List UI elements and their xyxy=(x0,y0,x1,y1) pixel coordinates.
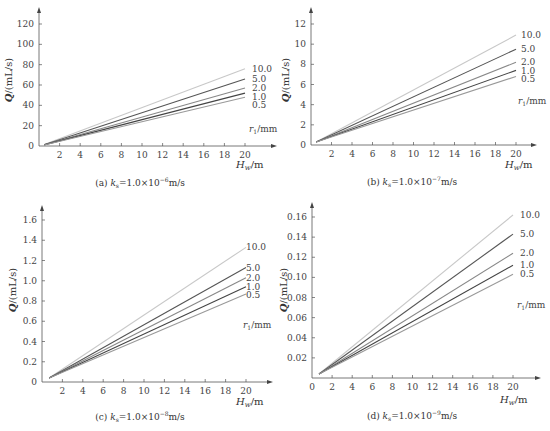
x-tick-label: 10 xyxy=(407,382,419,392)
y-tick-label: 0.4 xyxy=(23,337,38,347)
x-axis-label: Hw/m xyxy=(504,159,533,172)
legend-title: r1/mm xyxy=(249,124,278,135)
x-tick-label: 12 xyxy=(427,382,438,392)
x-tick-label: 10 xyxy=(136,150,148,160)
x-axis-arrow-icon xyxy=(267,380,273,384)
legend-title: r1/mm xyxy=(243,320,272,331)
y-tick-label: 4 xyxy=(300,100,306,110)
y-axis-arrow-icon xyxy=(310,202,314,208)
y-tick-label: 0.10 xyxy=(287,272,307,282)
x-axis-label: Hw/m xyxy=(235,159,264,172)
x-tick-label: 2 xyxy=(60,386,66,396)
y-tick-label: 0 xyxy=(28,141,34,151)
x-tick-label: 12 xyxy=(428,149,439,159)
chart-caption: (a) ks=1.0×10−6m/s xyxy=(95,176,185,189)
y-tick-label: 1.0 xyxy=(23,276,38,286)
x-tick-label: 20 xyxy=(240,386,252,396)
x-tick-label: 4 xyxy=(349,149,355,159)
x-tick-label: 0 xyxy=(309,382,315,392)
x-tick-label: 8 xyxy=(390,382,396,392)
y-tick-label: 6 xyxy=(300,80,306,90)
y-tick-label: 0.2 xyxy=(23,357,37,367)
x-tick-label: 14 xyxy=(179,386,191,396)
series-label-r0.5: 0.5 xyxy=(252,100,267,110)
x-tick-label: 6 xyxy=(370,149,376,159)
series-line-r2.0 xyxy=(319,253,513,374)
x-tick-label: 6 xyxy=(100,386,106,396)
y-tick-label: 120 xyxy=(17,19,34,29)
series-label-r10.0: 10.0 xyxy=(521,30,541,40)
x-tick-label: 10 xyxy=(408,149,420,159)
x-axis-label: Hw/m xyxy=(235,396,264,409)
y-tick-label: 0 xyxy=(31,377,37,387)
x-tick-label: 20 xyxy=(507,382,519,392)
y-axis-label: Q/(mL/s) xyxy=(278,268,289,313)
x-axis-label: Hw/m xyxy=(499,394,528,407)
y-tick-label: 0.6 xyxy=(23,316,38,326)
y-axis-arrow-icon xyxy=(37,7,41,13)
x-tick-label: 12 xyxy=(157,150,168,160)
y-tick-label: 0.8 xyxy=(23,296,38,306)
x-tick-label: 18 xyxy=(490,149,502,159)
chart-caption: (d) ks=1.0×10−9m/s xyxy=(367,409,458,422)
series-label-r10.0: 10.0 xyxy=(520,210,540,220)
x-tick-label: 8 xyxy=(119,150,125,160)
y-tick-label: 0.06 xyxy=(287,313,307,323)
chart-panel-c: 246810121416182000.20.40.60.81.01.21.41.… xyxy=(7,205,273,423)
series-label-r5.0: 5.0 xyxy=(521,44,536,54)
series-line-r0.5 xyxy=(319,274,513,374)
series-line-r0.5 xyxy=(316,76,516,142)
x-tick-label: 4 xyxy=(77,150,83,160)
y-tick-label: 100 xyxy=(17,39,34,49)
x-axis-arrow-icon xyxy=(531,143,537,147)
y-axis-arrow-icon xyxy=(40,205,44,211)
x-tick-label: 8 xyxy=(121,386,127,396)
series-label-r0.5: 0.5 xyxy=(246,290,261,300)
chart-panel-b: 246810121416182002468101210.05.02.01.00.… xyxy=(280,7,547,188)
y-tick-label: 0 xyxy=(300,140,306,150)
legend-title: r1/mm xyxy=(517,300,546,311)
series-line-r0.5 xyxy=(44,97,245,145)
y-tick-label: 60 xyxy=(23,80,35,90)
chart-panel-d: 024681012141618200.020.040.060.080.100.1… xyxy=(278,202,546,422)
y-tick-label: 0.16 xyxy=(287,212,307,222)
x-tick-label: 18 xyxy=(219,150,231,160)
x-tick-label: 2 xyxy=(329,382,335,392)
y-tick-label: 40 xyxy=(23,100,35,110)
x-tick-label: 10 xyxy=(138,386,150,396)
y-axis-label: Q/(mL/s) xyxy=(280,58,291,103)
x-tick-label: 14 xyxy=(447,382,459,392)
y-tick-label: 1.2 xyxy=(23,256,37,266)
series-line-r2.0 xyxy=(49,278,246,378)
x-axis-arrow-icon xyxy=(535,376,541,380)
x-tick-label: 14 xyxy=(177,150,189,160)
chart-panel-a: 246810121416182002040608010012010.05.02.… xyxy=(3,7,278,189)
series-label-r10.0: 10.0 xyxy=(246,242,266,252)
x-tick-label: 16 xyxy=(198,150,210,160)
x-tick-label: 4 xyxy=(349,382,355,392)
legend-title: r1/mm xyxy=(518,96,547,107)
series-line-r5.0 xyxy=(49,268,246,378)
series-line-r1.0 xyxy=(49,287,246,378)
x-tick-label: 16 xyxy=(199,386,211,396)
y-tick-label: 1.6 xyxy=(23,215,38,225)
series-line-r10.0 xyxy=(316,35,516,142)
chart-caption: (b) ks=1.0×10−7m/s xyxy=(367,175,458,188)
series-line-r1.0 xyxy=(319,265,513,374)
figure-panel-grid: 246810121416182002040608010012010.05.02.… xyxy=(0,0,550,431)
x-tick-label: 14 xyxy=(449,149,461,159)
y-tick-label: 0.12 xyxy=(287,252,307,262)
series-line-r1.0 xyxy=(316,70,516,142)
series-line-r2.0 xyxy=(44,88,245,145)
x-axis-arrow-icon xyxy=(271,144,277,148)
x-tick-label: 18 xyxy=(487,382,499,392)
series-label-r0.5: 0.5 xyxy=(521,74,536,84)
chart-caption: (c) ks=1.0×10−8m/s xyxy=(95,410,185,423)
x-tick-label: 4 xyxy=(80,386,86,396)
y-tick-label: 0.04 xyxy=(287,333,307,343)
x-tick-label: 12 xyxy=(159,386,170,396)
series-line-r1.0 xyxy=(44,93,245,145)
series-label-r5.0: 5.0 xyxy=(246,263,261,273)
y-tick-label: 12 xyxy=(295,19,306,29)
series-line-r10.0 xyxy=(44,69,245,145)
